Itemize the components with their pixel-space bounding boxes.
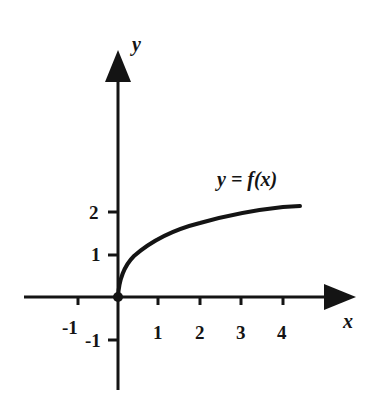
- y-tick-label: 1: [91, 245, 101, 264]
- x-tick-label: 4: [277, 323, 287, 342]
- function-graph: [0, 0, 374, 419]
- y-axis-label: y: [132, 34, 141, 54]
- x-axis-arrow-icon: [324, 284, 356, 310]
- x-tick-label: 3: [236, 323, 246, 342]
- origin-point: [113, 292, 123, 302]
- y-axis-arrow-icon: [105, 50, 131, 82]
- y-tick-label: -1: [85, 331, 101, 350]
- x-tick-label: 1: [153, 323, 163, 342]
- y-tick-label: 2: [89, 203, 99, 222]
- function-label: y = f(x): [217, 169, 277, 189]
- function-curve: [118, 206, 300, 297]
- x-axis-label: x: [343, 311, 353, 331]
- x-tick-label: -1: [62, 318, 78, 337]
- x-tick-label: 2: [195, 323, 205, 342]
